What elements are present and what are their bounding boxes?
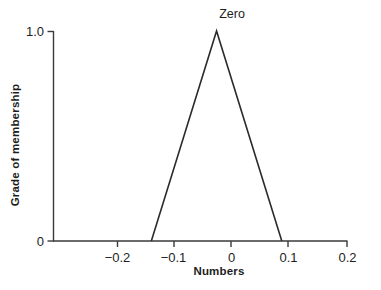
y-axis-title: Grade of membership [9, 84, 21, 207]
x-tick-label--0.1: −0.1 [148, 251, 199, 264]
x-tick-label-0: 0 [206, 251, 257, 264]
x-axis-title: Numbers [182, 266, 256, 278]
x-tick-label-0.1: 0.1 [263, 251, 314, 264]
x-tick-label-0.2: 0.2 [322, 251, 373, 264]
membership-function-zero [151, 31, 281, 241]
plot-area [0, 0, 381, 290]
annotation-zero: Zero [199, 8, 265, 21]
chart-figure: 1.0 0 −0.2 −0.1 0 0.1 0.2 Zero Numbers G… [0, 0, 381, 290]
x-tick-label--0.2: −0.2 [92, 251, 143, 264]
y-axis-title-wrapper: Grade of membership [0, 0, 30, 290]
